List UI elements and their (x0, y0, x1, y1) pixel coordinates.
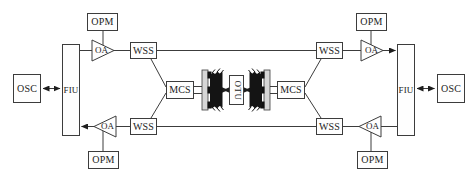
wss-mcs-left-lower-diagonal (151, 93, 166, 118)
node-mcs-left-label: MCS (169, 85, 191, 95)
node-opm-bottom-left: OPM (88, 151, 119, 169)
node-oa-bottom-right-label: OA (364, 120, 381, 133)
node-wss-bottom-left: WSS (130, 118, 157, 135)
node-opm-bottom-right-label: OPM (361, 155, 383, 165)
node-osc-right-label: OSC (441, 84, 461, 94)
node-otu: OTU (229, 75, 244, 105)
node-fiu-right: FIU (397, 44, 415, 136)
node-oa-top-left-label: OA (92, 44, 111, 57)
node-wss-top-left-label: WSS (133, 46, 154, 56)
node-opm-top-right-label: OPM (360, 17, 382, 27)
fiber-bundle-left-icon (202, 69, 224, 112)
node-wss-bottom-right-label: WSS (319, 122, 340, 132)
wss-mcs-left-upper-diagonal (151, 59, 166, 87)
wss-mcs-right-upper-diagonal (305, 59, 321, 87)
node-opm-top-right: OPM (356, 13, 387, 31)
node-osc-left: OSC (13, 74, 41, 103)
fiber-bundle-right-icon (249, 69, 271, 112)
node-opm-top-left: OPM (87, 13, 118, 31)
node-oa-bottom-left-label: OA (99, 120, 116, 133)
optical-network-diagram: OSC FIU OPM WSS MCS OTU MCS WSS OPM FIU … (0, 0, 472, 180)
wss-mcs-right-lower-diagonal (305, 93, 321, 118)
node-wss-top-right: WSS (316, 42, 343, 59)
node-oa-top-right-label: OA (362, 44, 381, 57)
node-fiu-left: FIU (62, 44, 80, 136)
node-mcs-right: MCS (277, 81, 305, 99)
node-opm-bottom-left-label: OPM (92, 155, 114, 165)
node-wss-bottom-left-label: WSS (133, 122, 154, 132)
node-osc-left-label: OSC (17, 84, 37, 94)
node-fiu-right-label: FIU (398, 86, 413, 95)
node-wss-top-left: WSS (130, 42, 157, 59)
node-otu-label: OTU (232, 80, 241, 100)
node-wss-top-right-label: WSS (319, 46, 340, 56)
node-opm-top-left-label: OPM (91, 17, 113, 27)
node-wss-bottom-right: WSS (316, 118, 343, 135)
node-osc-right: OSC (437, 74, 465, 103)
node-mcs-right-label: MCS (280, 85, 302, 95)
node-fiu-left-label: FIU (63, 86, 78, 95)
node-opm-bottom-right: OPM (357, 151, 388, 169)
node-mcs-left: MCS (166, 81, 194, 99)
